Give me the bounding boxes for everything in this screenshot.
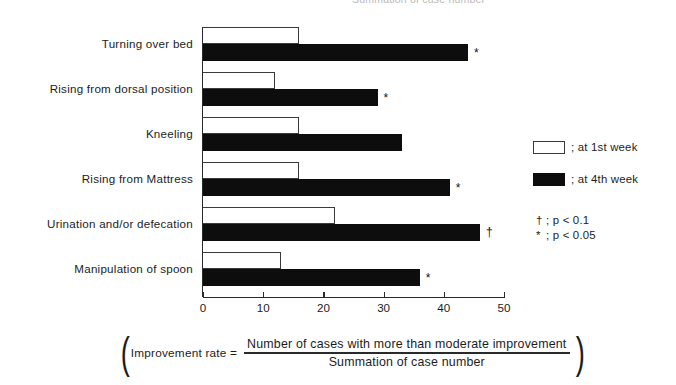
bar-open-1	[203, 27, 299, 44]
bar-open-5	[203, 207, 335, 224]
significance-mark-1: *	[474, 47, 479, 59]
p-note-text-1: ; p < 0.1	[546, 214, 589, 226]
significance-mark-6: *	[426, 272, 431, 284]
legend-swatch-open	[533, 141, 565, 154]
p-note-1: †; p < 0.1	[536, 213, 596, 228]
legend: ; at 1st week; at 4th week	[533, 139, 638, 203]
x-tick-label-40: 40	[437, 301, 450, 314]
formula-denominator: Summation of case number	[326, 354, 488, 369]
significance-mark-2: *	[384, 92, 389, 104]
x-tick-label-20: 20	[317, 301, 330, 314]
bar-filled-3	[203, 134, 402, 151]
category-label-column: Turning over bedRising from dorsal posit…	[0, 0, 193, 290]
x-tick-label-0: 0	[200, 301, 206, 314]
bar-open-2	[203, 72, 275, 89]
p-note-mark-2: *	[536, 228, 546, 243]
bar-filled-5	[203, 224, 480, 241]
x-tick-label-30: 30	[377, 301, 390, 314]
formula-numerator: Number of cases with more than moderate …	[244, 337, 569, 352]
x-tick-label-10: 10	[257, 301, 270, 314]
bar-filled-1	[203, 44, 468, 61]
x-tick-10	[263, 292, 264, 298]
x-tick-label-50: 50	[498, 301, 511, 314]
bar-open-4	[203, 162, 299, 179]
category-label-4: Rising from Mattress	[82, 172, 193, 185]
improvement-rate-formula: ( Improvement rate = Number of cases wit…	[118, 335, 587, 371]
x-axis-line	[203, 297, 504, 298]
x-tick-20	[323, 292, 324, 298]
legend-label-2: ; at 4th week	[571, 173, 638, 185]
formula-fraction: Number of cases with more than moderate …	[244, 337, 569, 368]
category-label-1: Turning over bed	[102, 37, 193, 50]
category-label-2: Rising from dorsal position	[50, 82, 193, 95]
x-tick-30	[384, 292, 385, 298]
category-label-3: Kneeling	[146, 127, 193, 140]
significance-mark-5: †	[486, 226, 493, 238]
legend-item-1: ; at 1st week	[533, 139, 638, 155]
bar-open-3	[203, 117, 299, 134]
legend-item-2: ; at 4th week	[533, 171, 638, 187]
legend-label-1: ; at 1st week	[571, 141, 638, 153]
formula-lhs: Improvement rate =	[131, 346, 237, 360]
x-tick-0	[203, 292, 204, 298]
bar-filled-6	[203, 269, 420, 286]
formula-right-paren: )	[575, 335, 584, 371]
bar-filled-2	[203, 89, 378, 106]
x-tick-50	[504, 292, 505, 298]
formula-left-paren: (	[121, 335, 130, 371]
significance-notes: †; p < 0.1*; p < 0.05	[536, 213, 596, 243]
category-label-5: Urination and/or defecation	[47, 217, 193, 230]
category-label-6: Manipulation of spoon	[74, 262, 193, 275]
p-note-2: *; p < 0.05	[536, 228, 596, 243]
bar-filled-4	[203, 179, 450, 196]
p-note-text-2: ; p < 0.05	[546, 229, 596, 241]
legend-swatch-filled	[533, 173, 565, 186]
significance-mark-4: *	[456, 182, 461, 194]
p-note-mark-1: †	[536, 213, 546, 228]
x-tick-40	[444, 292, 445, 298]
bar-open-6	[203, 252, 281, 269]
